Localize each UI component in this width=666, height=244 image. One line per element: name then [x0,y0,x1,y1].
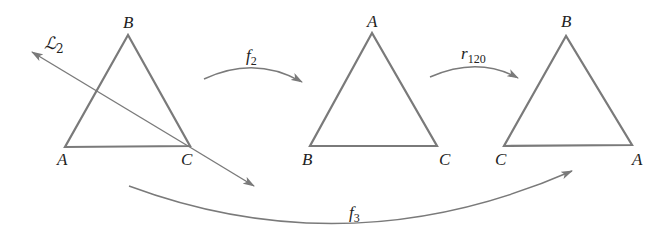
reflection-line-l2-ext [188,146,254,186]
arrow-r120 [430,67,518,78]
vertex-label-t1-right: C [181,151,192,168]
arrow-label-f2-sub: 2 [251,54,257,68]
symmetry-diagram: B A C ℒ2 A B C B C A f2 r120 f3 [0,0,666,244]
vertex-label-t2-left: B [302,151,312,168]
arrow-label-r120-main: r [461,44,468,63]
vertex-label-t3-right: A [632,151,642,168]
vertex-label-t3-left: C [495,151,506,168]
line-label-l2: ℒ2 [44,35,64,52]
arrow-label-f3: f3 [349,204,360,221]
arrow-label-f3-sub: 3 [354,211,360,225]
diagram-graphics [0,0,666,244]
vertex-label-t2-right: C [439,151,450,168]
vertex-label-t3-top: B [561,13,571,30]
arrow-f2 [204,68,302,82]
vertex-label-t1-top: B [123,14,133,31]
line-label-l2-sub: 2 [56,42,64,56]
vertex-label-t1-left: A [57,151,67,168]
vertex-label-t2-top: A [367,13,377,30]
arrow-label-r120: r120 [461,45,486,62]
arrow-label-f2: f2 [246,47,257,64]
triangle-after-r120 [504,36,632,146]
arrow-label-r120-sub: 120 [468,52,486,66]
line-label-l2-main: ℒ [44,33,56,53]
triangle-original [65,35,190,147]
triangle-after-f2 [310,33,437,146]
